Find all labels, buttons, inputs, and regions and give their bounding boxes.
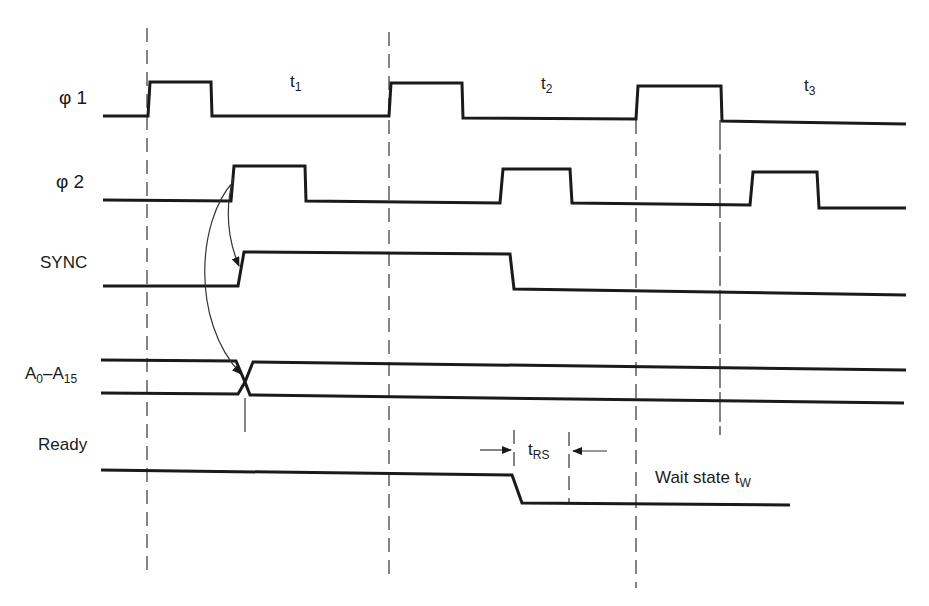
state-t1-label: t1 xyxy=(290,72,301,94)
ready-label: Ready xyxy=(38,435,87,455)
sync-waveform xyxy=(103,252,906,295)
timing-diagram xyxy=(0,0,929,606)
state-t2-label: t2 xyxy=(541,74,552,96)
phi2-waveform xyxy=(103,166,906,208)
wait-state-label: Wait state tW xyxy=(655,468,751,490)
address-bus-bottom xyxy=(101,382,904,403)
phi1-waveform xyxy=(103,82,906,124)
sync-label: SYNC xyxy=(40,253,87,273)
address-bus-top xyxy=(101,360,906,382)
phi-symbol: φ xyxy=(56,171,68,192)
phi1-label: φ 1 xyxy=(59,87,87,109)
trs-label: tRS xyxy=(528,440,549,462)
phi2-to-address-arrow xyxy=(205,182,241,374)
phi2-to-sync-arrow xyxy=(228,178,239,266)
state-t3-label: t3 xyxy=(804,76,815,98)
phi2-label: φ 2 xyxy=(56,171,84,193)
phi-symbol: φ xyxy=(59,87,71,108)
address-bus-label: A0–A15 xyxy=(25,364,77,386)
